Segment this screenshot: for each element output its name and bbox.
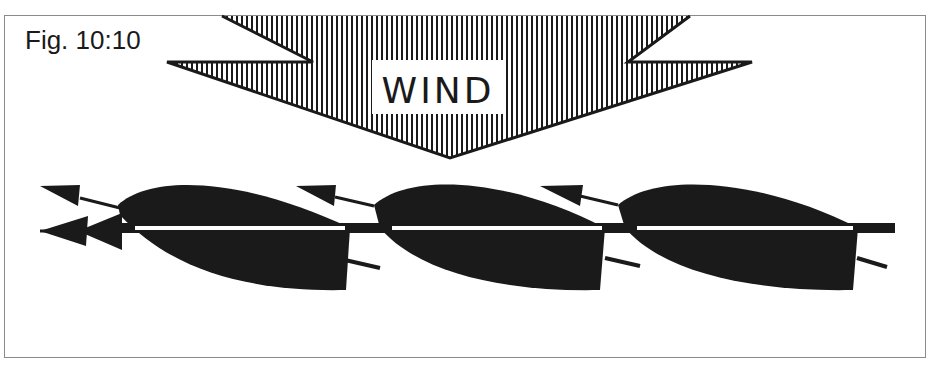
wind-arrow-icon: WIND [167, 16, 752, 158]
wind-label: WIND [382, 70, 495, 111]
